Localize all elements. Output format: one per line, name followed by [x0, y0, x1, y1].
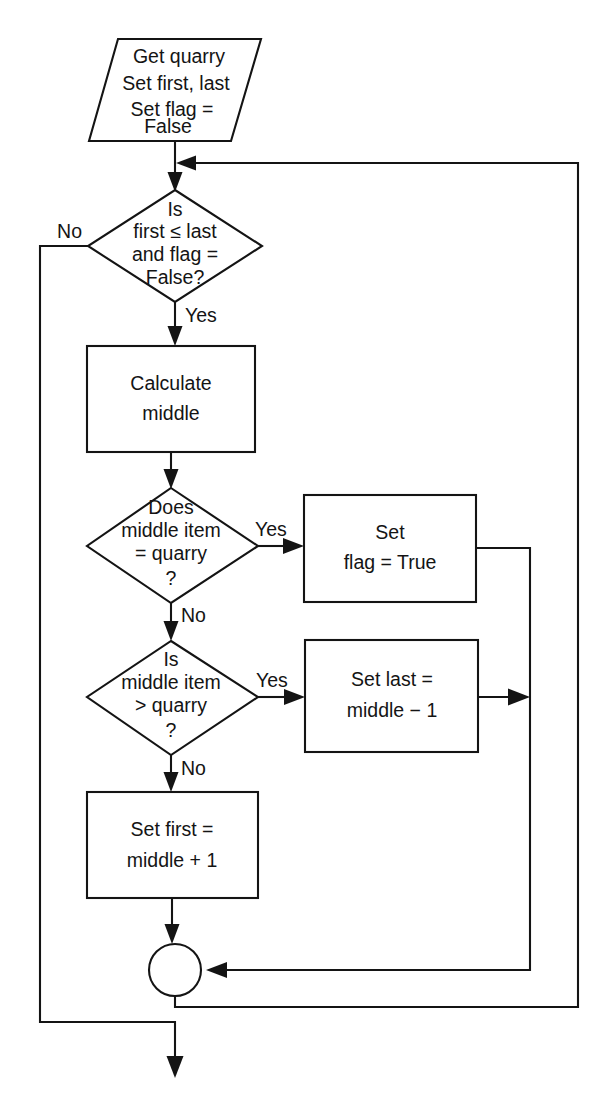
edge-label-loop-yes: Yes — [185, 304, 217, 326]
loop-condition-line-3: and flag = — [132, 243, 218, 265]
flowchart-diagram: Get quarry Set first, last Set flag = Fa… — [0, 0, 603, 1096]
node-set-first: Set first = middle + 1 — [87, 792, 258, 898]
edge-label-greater-no: No — [181, 757, 206, 779]
equals-line-1: Does — [148, 496, 194, 518]
set-last-line-2: middle − 1 — [347, 699, 438, 721]
flowchart-canvas: Get quarry Set first, last Set flag = Fa… — [0, 0, 603, 1096]
greater-line-2: middle item — [121, 671, 221, 693]
equals-line-4: ? — [166, 567, 177, 589]
start-io-line-1: Get quarry — [133, 45, 225, 67]
edge-loop-yes-to-calculate — [168, 302, 183, 346]
edge-label-equals-no: No — [181, 604, 206, 626]
node-loop-condition: Is first ≤ last and flag = False? — [88, 190, 262, 302]
edge-label-greater-yes: Yes — [256, 669, 288, 691]
edge-label-equals-yes: Yes — [255, 518, 287, 540]
loop-condition-line-1: Is — [167, 198, 182, 220]
calculate-middle-line-2: middle — [142, 402, 199, 424]
greater-line-1: Is — [163, 648, 178, 670]
edge-setflag-to-merge — [206, 548, 530, 978]
greater-line-3: > quarry — [135, 694, 207, 716]
edge-equals-no-to-greater — [164, 603, 179, 641]
loop-condition-line-2: first ≤ last — [133, 220, 217, 242]
edge-greater-no-to-setfirst — [164, 755, 179, 792]
edge-setlast-to-inner-return — [478, 689, 530, 706]
greater-line-4: ? — [166, 719, 177, 741]
node-merge-connector — [149, 944, 201, 996]
set-flag-line-2: flag = True — [344, 551, 437, 573]
node-middle-equals-quarry: Does middle item = quarry ? — [87, 488, 258, 603]
start-io-line-4: False — [144, 115, 192, 137]
edge-equals-yes-to-setflag — [258, 538, 304, 554]
edge-calculate-to-equals — [164, 452, 179, 489]
start-io-line-2: Set first, last — [122, 72, 230, 94]
node-middle-greater-quarry: Is middle item > quarry ? — [87, 641, 258, 755]
loop-condition-line-4: False? — [146, 266, 205, 288]
edge-start-to-loop — [168, 141, 183, 192]
equals-line-3: = quarry — [135, 542, 207, 564]
node-set-last: Set last = middle − 1 — [305, 640, 478, 752]
equals-line-2: middle item — [121, 519, 221, 541]
set-last-line-1: Set last = — [351, 668, 433, 690]
calculate-middle-line-1: Calculate — [130, 372, 211, 394]
node-set-flag-true: Set flag = True — [304, 495, 476, 602]
set-first-line-2: middle + 1 — [127, 849, 218, 871]
edge-greater-yes-to-setlast — [258, 689, 305, 705]
node-start-io: Get quarry Set first, last Set flag = Fa… — [89, 39, 261, 141]
set-first-line-1: Set first = — [131, 818, 214, 840]
set-flag-line-1: Set — [375, 521, 405, 543]
node-calculate-middle: Calculate middle — [87, 346, 255, 452]
edge-setfirst-to-merge — [165, 898, 180, 944]
edge-label-loop-no: No — [57, 220, 82, 242]
